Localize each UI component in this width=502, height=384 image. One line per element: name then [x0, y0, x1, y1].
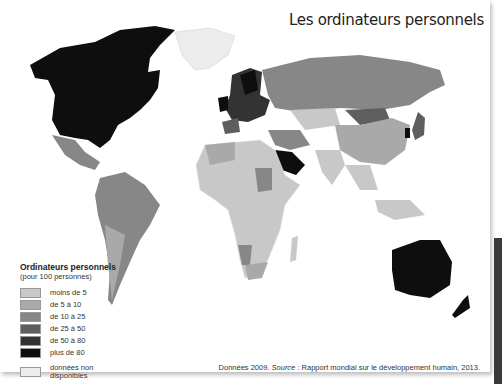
region-madagascar: [290, 236, 298, 262]
legend-swatch: [20, 300, 41, 310]
region-middle-east: [268, 130, 310, 150]
legend-label: moins de 5: [50, 289, 87, 297]
legend-swatch: [20, 312, 41, 322]
source-text: : Rapport mondial sur le développement h…: [295, 363, 480, 372]
legend-item: données non disponibles: [20, 362, 160, 382]
source-note: Données 2009. Source : Rapport mondial s…: [219, 363, 480, 372]
legend-title: Ordinateurs personnels: [20, 262, 160, 272]
region-namibia: [238, 245, 252, 265]
legend-item: plus de 80: [20, 347, 160, 359]
legend-label: de 50 à 80: [50, 337, 85, 345]
region-south-korea: [405, 128, 410, 138]
source-label: Source: [272, 363, 296, 372]
source-prefix: Données 2009.: [219, 363, 272, 372]
region-greenland: [175, 28, 235, 70]
legend: Ordinateurs personnels (pour 100 personn…: [20, 262, 160, 382]
legend-label: de 10 à 25: [50, 313, 85, 321]
legend-label: de 25 à 50: [50, 325, 85, 333]
legend-subtitle: (pour 100 personnes): [20, 272, 160, 281]
legend-swatch: [20, 324, 41, 334]
region-russia: [262, 55, 445, 112]
book-page-edge: [494, 238, 502, 384]
region-china: [335, 118, 410, 165]
region-india: [315, 150, 345, 185]
legend-item: de 50 à 80: [20, 335, 160, 347]
legend-item: de 25 à 50: [20, 323, 160, 335]
region-australia: [392, 240, 452, 298]
region-japan: [412, 112, 425, 140]
legend-item: de 10 à 25: [20, 311, 160, 323]
legend-label: données non disponibles: [50, 364, 110, 380]
region-new-zealand: [452, 295, 470, 318]
legend-swatch: [20, 336, 41, 346]
legend-label: plus de 80: [50, 349, 85, 357]
legend-swatch: [20, 367, 41, 377]
legend-swatch: [20, 288, 41, 298]
legend-swatch: [20, 348, 41, 358]
legend-item: de 5 à 10: [20, 299, 160, 311]
legend-item: moins de 5: [20, 287, 160, 299]
legend-label: de 5 à 10: [50, 301, 81, 309]
